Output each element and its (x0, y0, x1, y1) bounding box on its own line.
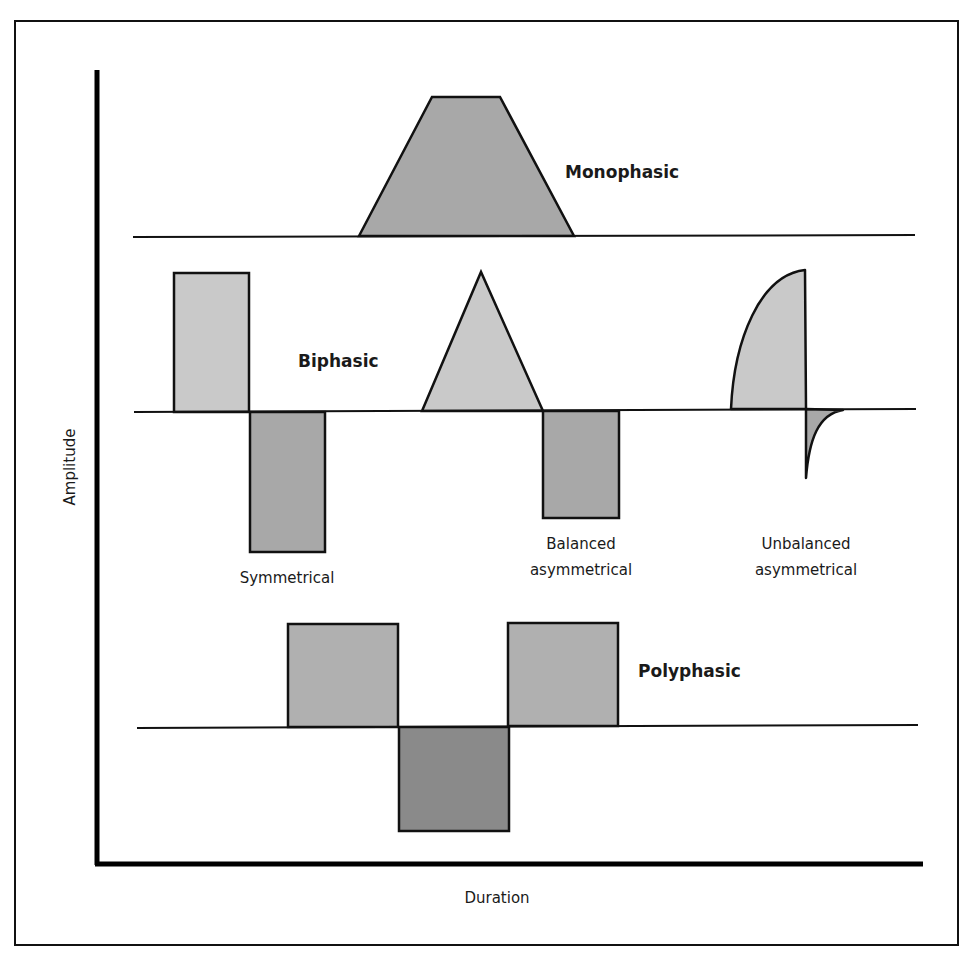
unbalanced-negative-tail (806, 409, 843, 478)
polyphasic-pulse-2-negative (399, 727, 509, 831)
polyphasic-title: Polyphasic (638, 661, 741, 681)
monophasic-trapezoid (359, 97, 574, 236)
monophasic-baseline (133, 235, 915, 237)
unbalanced-label-line2: asymmetrical (755, 561, 857, 579)
balanced-positive-triangle (422, 272, 543, 411)
symmetrical-negative-pulse (250, 412, 325, 552)
biphasic-title: Biphasic (298, 351, 379, 371)
balanced-label-line2: asymmetrical (530, 561, 632, 579)
x-axis-label: Duration (464, 889, 529, 907)
unbalanced-positive-lobe (731, 270, 806, 409)
symmetrical-label: Symmetrical (240, 569, 335, 587)
monophasic-title: Monophasic (565, 162, 679, 182)
monophasic-waveform: Monophasic (133, 97, 915, 237)
polyphasic-pulse-3 (508, 623, 618, 726)
balanced-negative-pulse (543, 411, 619, 518)
waveform-diagram: Amplitude Duration Monophasic Biphasic S… (0, 0, 971, 966)
biphasic-waveforms: Biphasic Symmetrical Balanced asymmetric… (134, 270, 916, 587)
polyphasic-waveform: Polyphasic (137, 623, 918, 831)
unbalanced-label-line1: Unbalanced (761, 535, 850, 553)
symmetrical-positive-pulse (174, 273, 249, 412)
y-axis-label: Amplitude (61, 429, 79, 506)
balanced-label-line1: Balanced (546, 535, 615, 553)
polyphasic-pulse-1 (288, 624, 398, 727)
